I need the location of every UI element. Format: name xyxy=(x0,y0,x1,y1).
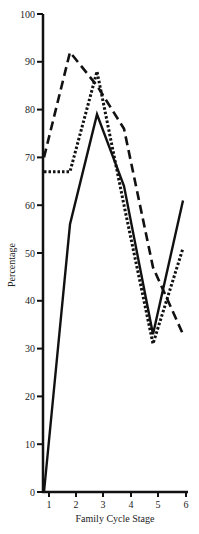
y-tick-label: 70 xyxy=(25,152,35,163)
y-tick-label: 40 xyxy=(25,295,35,306)
x-axis-title: Family Cycle Stage xyxy=(76,513,155,524)
y-tick-label: 30 xyxy=(25,343,35,354)
series-layer xyxy=(44,52,183,492)
y-tick-label: 50 xyxy=(25,248,35,259)
y-tick-label: 0 xyxy=(30,487,35,498)
x-tick-label: 2 xyxy=(74,499,79,510)
series-solid-line xyxy=(44,114,183,492)
line-chart: 0102030405060708090100 123456 Family Cyc… xyxy=(0,0,199,534)
x-axis: 123456 xyxy=(42,492,189,510)
y-axis-title: Percentage xyxy=(6,243,17,287)
y-tick-label: 100 xyxy=(20,9,35,20)
y-tick-label: 10 xyxy=(25,439,35,450)
x-tick-label: 3 xyxy=(101,499,106,510)
y-tick-label: 60 xyxy=(25,200,35,211)
y-tick-label: 90 xyxy=(25,56,35,67)
y-tick-label: 20 xyxy=(25,391,35,402)
x-tick-label: 4 xyxy=(129,499,134,510)
x-tick-label: 6 xyxy=(184,499,189,510)
x-tick-label: 5 xyxy=(156,499,161,510)
y-tick-label: 80 xyxy=(25,104,35,115)
x-tick-label: 1 xyxy=(47,499,52,510)
y-axis: 0102030405060708090100 xyxy=(20,9,43,498)
